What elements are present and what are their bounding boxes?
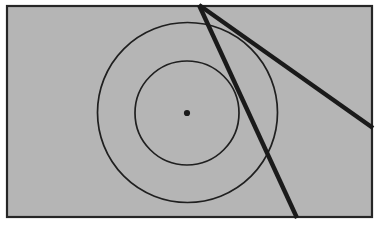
center-point [184, 110, 190, 116]
figure-root: Two concentric circles with two thick se… [0, 0, 379, 225]
geometry-figure-canvas [0, 0, 379, 225]
